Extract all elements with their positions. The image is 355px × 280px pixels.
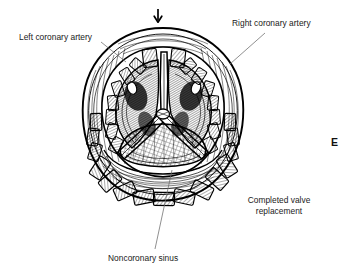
down-arrow-icon — [154, 9, 162, 22]
label-left-coronary-artery: Left coronary artery — [19, 32, 92, 43]
figure-root: Left coronary artery Right coronary arte… — [0, 0, 355, 280]
label-completed-valve-line1: Completed valve — [231, 195, 327, 206]
label-completed-valve-line2: replacement — [231, 206, 327, 217]
leader-right-coronary — [230, 33, 265, 64]
panel-letter: E — [331, 136, 338, 148]
label-right-coronary-artery: Right coronary artery — [232, 18, 311, 29]
label-noncoronary-sinus: Noncoronary sinus — [108, 253, 178, 264]
